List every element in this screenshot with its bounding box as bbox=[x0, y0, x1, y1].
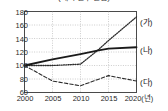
chart-container: (제목 일부 잘림) 180 160 140 120 100 80 60 200… bbox=[0, 0, 168, 111]
y-axis-tick-label: 140 bbox=[6, 36, 28, 44]
y-axis-tick-label: 80 bbox=[6, 76, 28, 84]
series-label-da: (다) bbox=[140, 79, 152, 87]
plot-area bbox=[24, 11, 137, 93]
series-label-ga: (가) bbox=[140, 19, 152, 27]
series-label-na: (나) bbox=[140, 47, 152, 55]
y-axis-tick-label: 120 bbox=[6, 49, 28, 57]
chart-title: (제목 일부 잘림) bbox=[0, 0, 168, 2]
y-axis-tick-label: 160 bbox=[6, 22, 28, 30]
y-axis-tick-label: 100 bbox=[6, 62, 28, 70]
x-axis-tick-label: 2020(년) bbox=[116, 95, 162, 103]
y-axis-tick-label: 180 bbox=[6, 9, 28, 17]
